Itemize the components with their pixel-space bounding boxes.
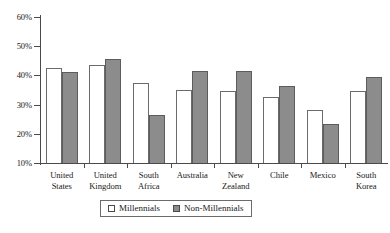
category-label-line: Chile: [258, 170, 302, 181]
category-label-line: Australia: [171, 170, 215, 181]
x-axis-category-label: UnitedKingdom: [84, 170, 128, 191]
bar-non-millennials[interactable]: [279, 86, 295, 163]
chart-legend: Millennials Non-Millennials: [100, 200, 252, 217]
x-axis-tick: [258, 163, 259, 168]
x-axis-category-label: UnitedStates: [40, 170, 84, 191]
white-square-icon: [108, 205, 115, 212]
x-axis-tick: [171, 163, 172, 168]
gray-square-icon: [173, 205, 180, 212]
grouped-bar-chart: 60%50%40%30%20%10% UnitedStatesUnitedKin…: [0, 0, 390, 233]
bar-millennials[interactable]: [263, 97, 279, 163]
bar-group: [133, 17, 165, 163]
category-label-line: South: [127, 170, 171, 181]
category-label-line: Zealand: [214, 181, 258, 192]
y-axis-tick-label: 40%: [2, 71, 32, 80]
category-label-line: Mexico: [301, 170, 345, 181]
bar-millennials[interactable]: [133, 83, 149, 163]
bar-millennials[interactable]: [350, 91, 366, 163]
category-label-line: States: [40, 181, 84, 192]
bar-non-millennials[interactable]: [105, 59, 121, 163]
bar-group: [89, 17, 121, 163]
bar-non-millennials[interactable]: [366, 77, 382, 163]
category-label-line: New: [214, 170, 258, 181]
bar-non-millennials[interactable]: [62, 72, 78, 163]
bar-non-millennials[interactable]: [192, 71, 208, 163]
category-label-line: South: [345, 170, 389, 181]
y-axis-tick-label: 30%: [2, 101, 32, 110]
y-axis-tick-label: 50%: [2, 42, 32, 51]
bar-millennials[interactable]: [89, 65, 105, 163]
x-axis-tick: [345, 163, 346, 168]
y-axis-tick-label: 60%: [2, 13, 32, 22]
category-label-line: United: [84, 170, 128, 181]
x-axis-tick: [301, 163, 302, 168]
x-axis-category-label: SouthAfrica: [127, 170, 171, 191]
bar-group: [263, 17, 295, 163]
x-axis-category-label: Chile: [258, 170, 302, 181]
x-axis-tick: [127, 163, 128, 168]
legend-label-millennials: Millennials: [119, 203, 160, 213]
legend-item-millennials[interactable]: Millennials: [108, 203, 160, 213]
bar-group: [350, 17, 382, 163]
y-axis-tick: [34, 163, 40, 164]
category-label-line: Kingdom: [84, 181, 128, 192]
x-axis-category-label: NewZealand: [214, 170, 258, 191]
x-axis-category-label: Australia: [171, 170, 215, 181]
y-axis-tick-label: 10%: [2, 159, 32, 168]
x-axis-tick: [214, 163, 215, 168]
bar-group: [307, 17, 339, 163]
bar-millennials[interactable]: [307, 110, 323, 163]
bar-non-millennials[interactable]: [236, 71, 252, 163]
category-label-line: United: [40, 170, 84, 181]
bar-non-millennials[interactable]: [323, 124, 339, 163]
legend-item-non-millennials[interactable]: Non-Millennials: [173, 203, 244, 213]
x-axis-category-label: SouthKorea: [345, 170, 389, 191]
bar-non-millennials[interactable]: [149, 115, 165, 163]
category-label-line: Korea: [345, 181, 389, 192]
legend-label-non-millennials: Non-Millennials: [184, 203, 244, 213]
bar-group: [220, 17, 252, 163]
bar-group: [176, 17, 208, 163]
bar-millennials[interactable]: [220, 91, 236, 163]
x-axis-category-label: Mexico: [301, 170, 345, 181]
plot-area: [40, 17, 388, 163]
bar-millennials[interactable]: [176, 90, 192, 163]
x-axis-tick: [84, 163, 85, 168]
y-axis-tick-label: 20%: [2, 130, 32, 139]
category-label-line: Africa: [127, 181, 171, 192]
bar-millennials[interactable]: [46, 68, 62, 163]
bar-group: [46, 17, 78, 163]
